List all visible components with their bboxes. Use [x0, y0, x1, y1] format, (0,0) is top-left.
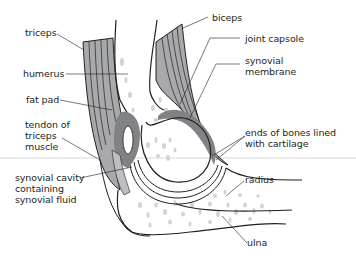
label-biceps: biceps: [212, 12, 242, 23]
label-ulna: ulna: [247, 237, 267, 248]
biceps-muscle: [156, 24, 228, 165]
label-tendon-of-triceps: tendon of triceps muscle: [25, 119, 70, 152]
label-triceps: triceps: [25, 27, 57, 38]
label-synovial-membrane: synovial membrane: [245, 55, 296, 77]
label-ends-of-bones: ends of bones lined with cartilage: [245, 127, 336, 149]
synovial-cavity: [123, 126, 133, 154]
ulna-lower-outline: [117, 190, 286, 235]
label-fat-pad: fat pad: [26, 94, 59, 105]
label-humerus: humerus: [23, 68, 64, 79]
label-joint-capsule: joint capsole: [245, 33, 304, 44]
label-synovial-cavity: synovial cavity containing synovial flui…: [15, 172, 84, 205]
label-radius: radius: [245, 174, 274, 185]
